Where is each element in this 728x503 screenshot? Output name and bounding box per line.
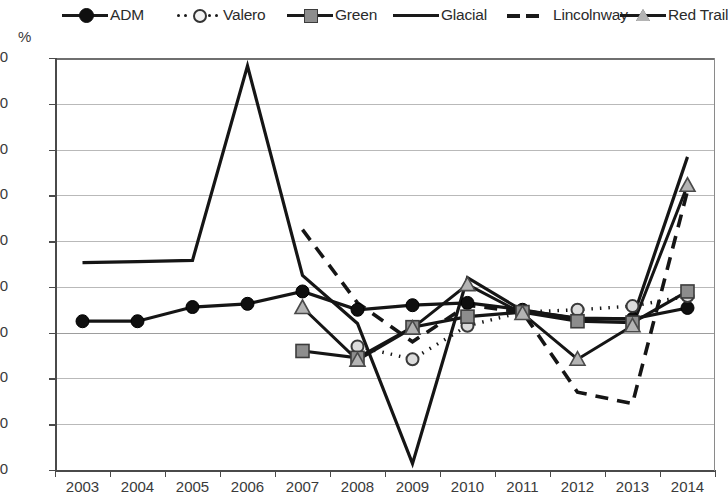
data-point-green-2012[interactable] [571,315,584,328]
data-point-green-2010[interactable] [461,310,474,323]
x-tick-label: 2009 [385,478,441,495]
data-point-adm-2006[interactable] [241,297,254,310]
y-tick-mark [49,58,56,59]
y-tick-label: -10 [0,368,8,385]
data-point-red-trail-2007[interactable] [295,300,310,314]
y-tick-label: 50 [0,94,8,111]
x-tick-mark [165,470,166,477]
x-tick-label: 2010 [440,478,496,495]
x-tick-label: 2008 [330,478,386,495]
y-tick-label: -20 [0,414,8,431]
series-line-glacial [83,66,688,464]
data-point-adm-2010[interactable] [461,296,474,309]
x-tick-label: 2014 [660,478,716,495]
y-tick-mark [49,195,56,196]
data-point-adm-2014[interactable] [681,301,694,314]
x-tick-label: 2013 [605,478,661,495]
x-tick-label: 2007 [275,478,331,495]
data-point-red-trail-2014[interactable] [680,178,695,192]
series-line-lincolnway [303,191,688,404]
y-tick-mark [49,287,56,288]
x-tick-mark [605,470,606,477]
x-tick-label: 2012 [550,478,606,495]
x-tick-mark [660,470,661,477]
x-tick-label: 2011 [495,478,551,495]
data-point-valero-2013[interactable] [627,300,639,312]
data-point-adm-2008[interactable] [351,303,364,316]
x-tick-mark [110,470,111,477]
y-tick-mark [49,150,56,151]
data-point-adm-2009[interactable] [406,299,419,312]
y-tick-mark [49,241,56,242]
x-tick-label: 2004 [110,478,166,495]
data-point-green-2007[interactable] [296,344,309,357]
x-tick-mark [495,470,496,477]
y-tick-label: 60 [0,48,8,65]
x-tick-mark [550,470,551,477]
x-tick-label: 2006 [220,478,276,495]
x-tick-mark [55,470,56,477]
data-point-valero-2009[interactable] [407,353,419,365]
data-point-green-2014[interactable] [681,285,694,298]
x-tick-mark [330,470,331,477]
x-tick-mark [275,470,276,477]
y-tick-mark [49,424,56,425]
x-tick-mark [440,470,441,477]
x-tick-mark [385,470,386,477]
x-tick-mark [715,470,716,477]
y-tick-label: 40 [0,140,8,157]
y-tick-mark [49,378,56,379]
y-tick-mark [49,333,56,334]
data-point-adm-2003[interactable] [76,315,89,328]
y-tick-mark [49,104,56,105]
x-tick-label: 2003 [55,478,111,495]
y-tick-label: 10 [0,277,8,294]
data-point-adm-2007[interactable] [296,285,309,298]
y-tick-label: 0 [0,323,8,340]
y-tick-label: -30 [0,460,8,477]
x-tick-mark [220,470,221,477]
x-tick-label: 2005 [165,478,221,495]
y-tick-label: 30 [0,185,8,202]
data-point-adm-2004[interactable] [131,315,144,328]
data-point-adm-2005[interactable] [186,301,199,314]
y-tick-label: 20 [0,231,8,248]
